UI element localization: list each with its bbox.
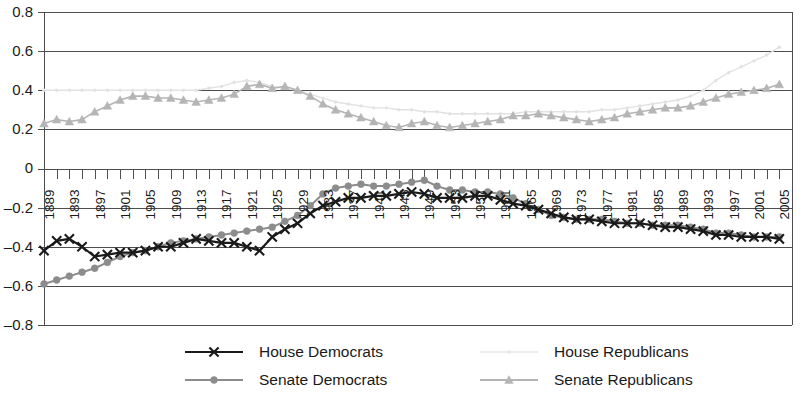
legend-label: Senate Republicans [554, 371, 693, 388]
data-point-marker [218, 232, 225, 239]
data-point-marker [397, 108, 400, 111]
data-point-marker [42, 89, 45, 92]
x-axis-ticks [45, 170, 793, 179]
data-point-marker [420, 117, 429, 125]
x-tick-label: 2001 [752, 189, 767, 219]
data-point-marker [194, 89, 197, 92]
data-point-marker [385, 106, 388, 109]
data-point-marker [93, 89, 96, 92]
legend-label: House Republicans [554, 343, 689, 360]
x-tick-label: 1909 [169, 189, 184, 219]
data-point-marker [231, 230, 238, 237]
x-tick-label: 1997 [727, 189, 742, 219]
data-point-marker [331, 106, 340, 114]
x-tick-label: 1977 [600, 189, 615, 219]
x-tick-label: 1961 [498, 189, 513, 219]
y-tick-label: –0.6 [4, 277, 33, 294]
data-point-marker [79, 269, 86, 276]
x-tick-label: 1893 [67, 189, 82, 219]
x-tick-label: 1913 [194, 189, 209, 219]
x-tick-label: 1925 [270, 189, 285, 219]
x-tick-label: 1937 [346, 189, 361, 219]
data-point-marker [778, 46, 781, 49]
y-axis-tick-labels: 0.80.60.40.20–0.2–0.4–0.6–0.8 [4, 3, 33, 333]
x-tick-label: 1929 [296, 189, 311, 219]
data-point-marker [230, 90, 239, 98]
legend-item-house-democrats[interactable]: House Democrats [185, 343, 383, 360]
data-point-marker [104, 259, 111, 266]
data-point-marker [461, 112, 464, 115]
data-point-marker [507, 350, 510, 353]
y-tick-label: –0.8 [4, 316, 33, 333]
data-point-marker [345, 183, 352, 190]
data-point-marker [90, 107, 99, 115]
data-point-marker [740, 65, 743, 68]
y-tick-label: 0.2 [12, 120, 33, 137]
series-senate-republicans [40, 80, 784, 131]
data-point-marker [358, 181, 365, 188]
x-tick-label: 1901 [118, 189, 133, 219]
data-point-marker [396, 181, 403, 188]
gridlines [44, 12, 793, 326]
data-point-marker [269, 224, 276, 231]
x-tick-label: 2005 [777, 189, 792, 219]
x-tick-label: 1969 [549, 189, 564, 219]
data-point-marker [435, 110, 438, 113]
data-point-marker [103, 102, 112, 110]
x-tick-label: 1917 [219, 189, 234, 219]
legend-item-senate-democrats[interactable]: Senate Democrats [185, 371, 388, 388]
x-tick-label: 1957 [473, 189, 488, 219]
x-tick-label: 1933 [321, 189, 336, 219]
data-point-marker [408, 179, 415, 186]
data-point-marker [169, 89, 172, 92]
data-point-marker [752, 59, 755, 62]
data-point-marker [53, 277, 60, 284]
chart-legend: House DemocratsHouse RepublicansSenate D… [185, 343, 693, 388]
legend-item-senate-republicans[interactable]: Senate Republicans [480, 371, 693, 388]
data-point-marker [91, 265, 98, 272]
data-point-marker [347, 102, 350, 105]
y-tick-label: –0.2 [4, 199, 33, 216]
data-point-marker [243, 228, 250, 235]
data-point-marker [281, 82, 290, 90]
data-point-marker [41, 281, 48, 288]
x-tick-label: 1981 [625, 189, 640, 219]
x-tick-label: 1989 [676, 189, 691, 219]
legend-item-house-republicans[interactable]: House Republicans [480, 343, 689, 360]
data-point-marker [714, 79, 717, 82]
data-point-marker [106, 89, 109, 92]
y-tick-label: 0.8 [12, 3, 33, 20]
x-tick-label: 1985 [651, 189, 666, 219]
x-tick-label: 1921 [245, 189, 260, 219]
data-point-marker [689, 94, 692, 97]
data-point-marker [78, 115, 87, 123]
data-point-marker [55, 89, 58, 92]
data-point-marker [280, 225, 289, 234]
y-tick-label: 0.6 [12, 42, 33, 59]
party-polarization-line-chart: 0.80.60.40.20–0.2–0.4–0.6–0.8 1889189318… [0, 0, 804, 398]
x-tick-label: 1993 [701, 189, 716, 219]
data-point-marker [66, 273, 73, 280]
data-point-marker [182, 89, 185, 92]
data-point-marker [334, 100, 337, 103]
data-point-marker [534, 109, 543, 117]
data-point-marker [613, 108, 616, 111]
data-point-marker [207, 87, 210, 90]
x-tick-label: 1941 [372, 189, 387, 219]
data-point-marker [68, 89, 71, 92]
data-point-marker [232, 81, 235, 84]
y-tick-label: –0.4 [4, 238, 33, 255]
data-point-marker [587, 110, 590, 113]
data-point-marker [220, 85, 223, 88]
data-point-marker [473, 112, 476, 115]
data-point-marker [423, 110, 426, 113]
x-tick-label: 1905 [143, 189, 158, 219]
legend-label: Senate Democrats [259, 371, 388, 388]
x-tick-label: 1945 [397, 189, 412, 219]
data-point-marker [268, 232, 277, 241]
data-point-marker [448, 112, 451, 115]
data-point-marker [211, 377, 218, 384]
data-point-marker [52, 115, 61, 123]
legend-label: House Democrats [259, 343, 383, 360]
data-point-marker [434, 183, 441, 190]
